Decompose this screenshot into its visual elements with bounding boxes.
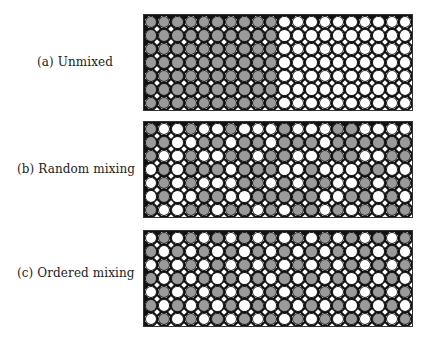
label-unmixed: (a) Unmixed <box>37 55 113 69</box>
gray-atom <box>372 285 385 299</box>
gray-atom <box>238 176 251 190</box>
white-atom <box>318 203 331 217</box>
gray-atom <box>291 203 304 217</box>
gray-atom <box>251 272 264 286</box>
gray-atom <box>332 149 345 163</box>
white-atom <box>345 69 358 83</box>
gray-atom <box>265 42 278 56</box>
gray-atom <box>385 272 398 286</box>
gray-atom <box>318 149 331 163</box>
white-atom <box>372 96 385 110</box>
gray-atom <box>184 56 197 70</box>
white-atom <box>291 56 304 70</box>
gray-atom <box>251 29 264 43</box>
gray-atom <box>184 231 197 245</box>
gray-atom <box>157 56 170 70</box>
white-atom <box>171 122 184 136</box>
white-atom <box>184 136 197 150</box>
gray-atom <box>198 42 211 56</box>
gray-atom <box>224 203 237 217</box>
gray-atom <box>345 231 358 245</box>
white-atom <box>291 69 304 83</box>
gray-atom <box>224 149 237 163</box>
gray-atom <box>224 96 237 110</box>
white-atom <box>291 83 304 97</box>
gray-atom <box>184 163 197 177</box>
white-atom <box>385 122 398 136</box>
gray-atom <box>157 69 170 83</box>
white-atom <box>305 258 318 272</box>
white-atom <box>385 312 398 326</box>
white-atom <box>291 149 304 163</box>
white-atom <box>157 149 170 163</box>
gray-atom <box>399 258 412 272</box>
gray-atom <box>372 231 385 245</box>
gray-atom <box>144 122 157 136</box>
gray-atom <box>224 56 237 70</box>
white-atom <box>171 176 184 190</box>
gray-atom <box>184 285 197 299</box>
white-atom <box>157 299 170 313</box>
gray-atom <box>238 312 251 326</box>
gray-atom <box>184 176 197 190</box>
white-atom <box>171 312 184 326</box>
gray-atom <box>358 299 371 313</box>
gray-atom <box>372 258 385 272</box>
gray-atom <box>238 285 251 299</box>
white-atom <box>171 285 184 299</box>
white-atom <box>385 56 398 70</box>
white-atom <box>251 203 264 217</box>
white-atom <box>144 176 157 190</box>
white-atom <box>278 285 291 299</box>
gray-atom <box>251 163 264 177</box>
gray-atom <box>251 56 264 70</box>
gray-atom <box>278 176 291 190</box>
gray-atom <box>278 122 291 136</box>
gray-atom <box>224 299 237 313</box>
white-atom <box>305 69 318 83</box>
white-atom <box>278 96 291 110</box>
white-atom <box>358 69 371 83</box>
white-atom <box>358 15 371 29</box>
gray-atom <box>144 15 157 29</box>
white-atom <box>171 149 184 163</box>
white-atom <box>198 231 211 245</box>
gray-atom <box>318 258 331 272</box>
gray-atom <box>157 83 170 97</box>
gray-atom <box>157 176 170 190</box>
gray-atom <box>171 69 184 83</box>
gray-atom <box>224 272 237 286</box>
white-atom <box>251 122 264 136</box>
label-ordered-mixing: (c) Ordered mixing <box>17 266 135 280</box>
white-atom <box>157 203 170 217</box>
gray-atom <box>211 312 224 326</box>
gray-atom <box>224 15 237 29</box>
gray-atom <box>144 69 157 83</box>
white-atom <box>358 83 371 97</box>
white-atom <box>372 176 385 190</box>
white-atom <box>345 176 358 190</box>
white-atom <box>171 258 184 272</box>
gray-atom <box>291 190 304 204</box>
white-atom <box>251 231 264 245</box>
white-atom <box>198 149 211 163</box>
gray-atom <box>251 15 264 29</box>
gray-atom <box>318 312 331 326</box>
gray-atom <box>358 176 371 190</box>
gray-atom <box>157 285 170 299</box>
white-atom <box>224 176 237 190</box>
gray-atom <box>184 42 197 56</box>
white-atom <box>318 136 331 150</box>
gray-atom <box>265 258 278 272</box>
gray-atom <box>305 176 318 190</box>
gray-atom <box>157 42 170 56</box>
white-atom <box>224 312 237 326</box>
white-atom <box>372 149 385 163</box>
white-atom <box>345 15 358 29</box>
gray-atom <box>251 42 264 56</box>
white-atom <box>291 96 304 110</box>
white-atom <box>291 272 304 286</box>
white-atom <box>318 272 331 286</box>
white-atom <box>385 15 398 29</box>
gray-atom <box>265 231 278 245</box>
